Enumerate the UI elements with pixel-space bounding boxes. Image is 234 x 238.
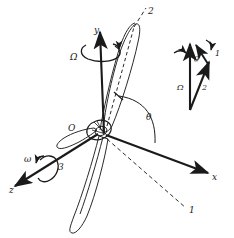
body-axis-label-2: 2 bbox=[147, 6, 154, 16]
body-axis-label-1: 1 bbox=[189, 205, 195, 215]
omega-z-label: ω bbox=[24, 154, 32, 164]
inset-vector-triangle bbox=[174, 40, 211, 110]
blade-lower bbox=[70, 136, 108, 233]
axis-label-y: y bbox=[93, 25, 100, 35]
origin-label: O bbox=[68, 123, 76, 133]
axis-x bbox=[106, 135, 208, 173]
body-axis-label-3: 3 bbox=[58, 162, 64, 172]
blade-upper bbox=[100, 23, 140, 132]
axis-label-z: z bbox=[8, 185, 14, 195]
omega-spin-label: Ω bbox=[69, 52, 78, 62]
figure-canvas: y x z O 2 1 3 Ω ω θ θ Ω 1 2 bbox=[0, 0, 234, 238]
inset-angle-theta-label: θ bbox=[194, 55, 199, 64]
body-axis-2 bbox=[134, 8, 146, 27]
propeller-kinematics-figure: y x z O 2 1 3 Ω ω θ θ Ω 1 2 bbox=[0, 0, 234, 238]
inset-vector-label-omega: Ω bbox=[176, 83, 184, 92]
axis-label-x: x bbox=[212, 172, 217, 182]
inset-vector-label-2: 2 bbox=[201, 83, 207, 92]
angle-theta-label-main: θ bbox=[146, 112, 152, 122]
inset-vector-label-1: 1 bbox=[215, 49, 220, 58]
